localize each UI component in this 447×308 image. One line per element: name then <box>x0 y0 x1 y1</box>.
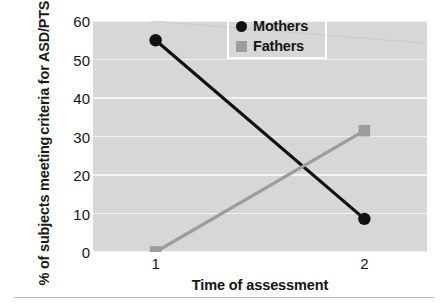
legend: Mothers Fathers <box>227 13 327 59</box>
x-axis-tick-labels: 12 <box>93 255 427 279</box>
x-axis-tick-label: 1 <box>136 255 176 272</box>
y-axis-tick-label: 20 <box>56 167 90 184</box>
y-axis-title-line-1: % of subjects meeting <box>37 137 52 286</box>
y-axis-tick-label: 50 <box>56 51 90 68</box>
y-axis-tick-label: 60 <box>56 13 90 30</box>
x-axis-title: Time of assessment <box>93 277 427 293</box>
chart-figure: % of subjects meeting criteria for ASD/P… <box>0 0 447 308</box>
x-axis-tick-label: 2 <box>344 255 384 272</box>
legend-item-mothers: Mothers <box>236 17 325 35</box>
footer-rule <box>14 297 434 298</box>
y-axis-tick-label: 40 <box>56 90 90 107</box>
y-axis-tick-label: 0 <box>56 244 90 261</box>
data-point-fathers-1 <box>150 246 162 252</box>
y-axis-title-line-2: criteria for ASD/PTSD <box>37 0 52 135</box>
data-point-mothers-2 <box>358 213 370 225</box>
legend-label-fathers: Fathers <box>253 38 304 54</box>
y-axis-tick-labels: 0102030405060 <box>56 0 90 308</box>
data-point-fathers-2 <box>359 125 371 137</box>
legend-item-fathers: Fathers <box>236 37 325 55</box>
circle-marker-icon <box>236 21 247 32</box>
y-axis-tick-label: 30 <box>56 128 90 145</box>
y-axis-tick-label: 10 <box>56 205 90 222</box>
data-point-mothers-1 <box>149 34 161 46</box>
square-marker-icon <box>236 41 247 52</box>
legend-label-mothers: Mothers <box>253 18 308 34</box>
